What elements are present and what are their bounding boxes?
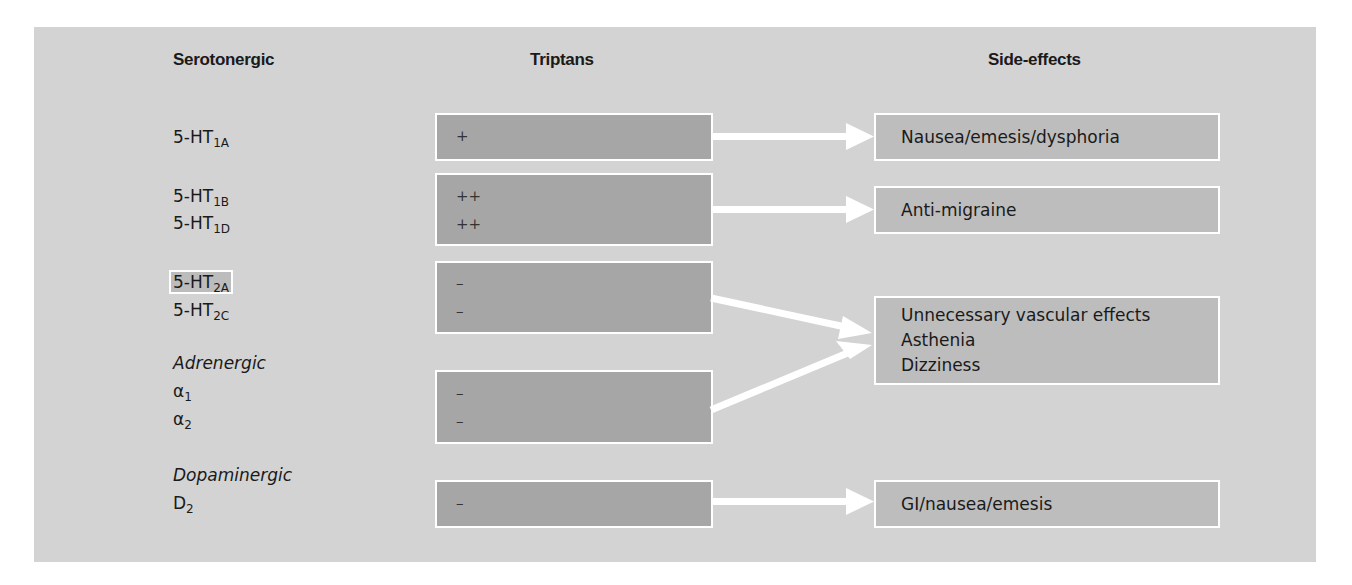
arrow-right-icon (713, 123, 874, 150)
arrow-diagonal-icon (711, 352, 850, 410)
arrow-right-icon (713, 488, 874, 515)
arrows-layer (0, 0, 1352, 585)
arrow-right-icon (713, 196, 874, 223)
arrow-diagonal-icon (711, 298, 850, 328)
